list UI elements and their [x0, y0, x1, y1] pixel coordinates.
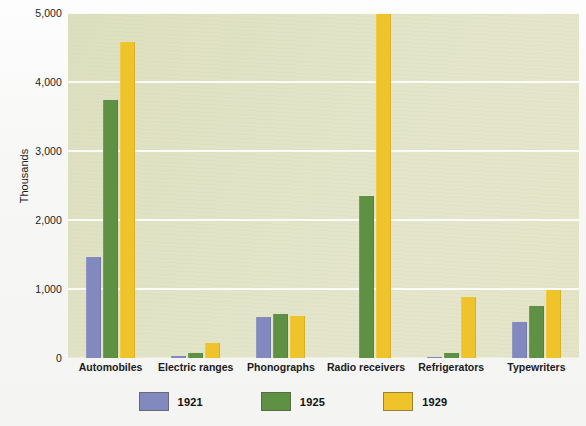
- legend-swatch-icon: [383, 392, 413, 411]
- legend-item[interactable]: 1921: [139, 392, 203, 411]
- chart-legend: 192119251929: [0, 392, 586, 411]
- bar[interactable]: [205, 343, 220, 358]
- bar-series-container: [68, 13, 579, 358]
- bar[interactable]: [86, 257, 101, 358]
- x-axis-label: Electric ranges: [158, 361, 233, 373]
- bar[interactable]: [376, 14, 391, 358]
- bar-group: [171, 13, 220, 358]
- bar[interactable]: [359, 196, 374, 358]
- legend-swatch-icon: [139, 392, 169, 411]
- bar[interactable]: [461, 297, 476, 358]
- legend-label: 1929: [422, 396, 447, 408]
- bar[interactable]: [444, 353, 459, 358]
- x-axis-label: Refrigerators: [418, 361, 484, 373]
- x-axis-labels: AutomobilesElectric rangesPhonographsRad…: [68, 361, 579, 379]
- bar-chart: Thousands 01,0002,0003,0004,0005,000 Aut…: [0, 0, 586, 426]
- bar[interactable]: [171, 356, 186, 358]
- bar[interactable]: [103, 100, 118, 358]
- bar[interactable]: [427, 357, 442, 359]
- x-axis-label: Typewriters: [507, 361, 565, 373]
- bar[interactable]: [273, 314, 288, 358]
- y-tick-label-1000: 1,000: [4, 283, 62, 295]
- y-tick-label-2000: 2,000: [4, 214, 62, 226]
- bar-group: [86, 13, 135, 358]
- bar-group: [256, 13, 305, 358]
- bar[interactable]: [546, 290, 561, 358]
- bar[interactable]: [529, 306, 544, 358]
- bar[interactable]: [256, 317, 271, 358]
- legend-swatch-icon: [261, 392, 291, 411]
- plot-area: [68, 13, 579, 358]
- y-axis-ticks: 01,0002,0003,0004,0005,000: [0, 13, 62, 358]
- bar[interactable]: [512, 322, 527, 358]
- bar-group: [342, 13, 391, 358]
- bar[interactable]: [188, 353, 203, 358]
- bar[interactable]: [120, 42, 135, 359]
- bar[interactable]: [290, 316, 305, 358]
- x-axis-label: Radio receivers: [327, 361, 405, 373]
- legend-label: 1921: [178, 396, 203, 408]
- y-tick-label-5000: 5,000: [4, 7, 62, 19]
- y-tick-label-4000: 4,000: [4, 76, 62, 88]
- x-axis-label: Phonographs: [247, 361, 315, 373]
- legend-item[interactable]: 1929: [383, 392, 447, 411]
- legend-item[interactable]: 1925: [261, 392, 325, 411]
- y-tick-label-0: 0: [4, 352, 62, 364]
- y-tick-label-3000: 3,000: [4, 145, 62, 157]
- bar-group: [512, 13, 561, 358]
- legend-label: 1925: [300, 396, 325, 408]
- bar-group: [427, 13, 476, 358]
- x-axis-label: Automobiles: [79, 361, 143, 373]
